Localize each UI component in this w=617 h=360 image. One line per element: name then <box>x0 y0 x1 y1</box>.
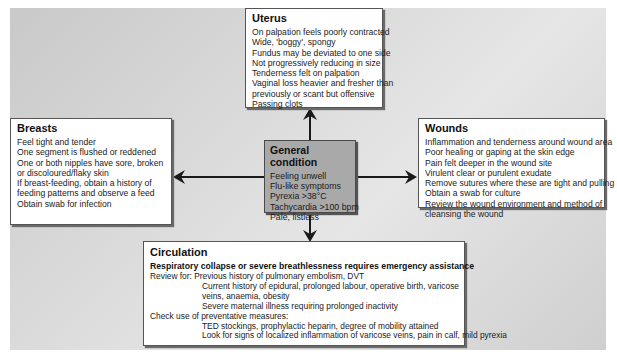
list-item: On palpation feels poorly contracted <box>252 27 376 37</box>
list-item: feeding patterns and observe a feed <box>17 188 165 198</box>
arrow-right-icon <box>405 170 417 184</box>
list-item: Obtain a swab for culture <box>425 188 598 198</box>
list-item: Not progressively reducing in size <box>252 58 376 68</box>
list-item: Wide, 'boggy', spongy <box>252 37 376 47</box>
uterus-box: Uterus On palpation feels poorly contrac… <box>245 8 383 108</box>
list-item: Feeling unwell <box>270 171 350 181</box>
uterus-title: Uterus <box>252 12 376 24</box>
wounds-list: Inflammation and tenderness around wound… <box>425 137 598 219</box>
list-item: One or both nipples have sore, broken <box>17 158 165 168</box>
list-item: Obtain swab for infection <box>17 199 165 209</box>
list-item: Remove sutures where these are tight and… <box>425 178 598 188</box>
breasts-box: Breasts Feel tight and tender One segmen… <box>10 118 172 225</box>
list-item: cleansing the wound <box>425 209 598 219</box>
list-item: Inflammation and tenderness around wound… <box>425 137 598 147</box>
general-condition-list: Feeling unwell Flu-like symptoms Pyrexia… <box>270 171 350 222</box>
connector-right <box>357 176 411 178</box>
list-item: or discoloured/flaky skin <box>17 168 165 178</box>
list-item: One segment is flushed or reddened <box>17 147 165 157</box>
arrow-up-icon <box>303 108 317 120</box>
list-item: Flu-like symptoms <box>270 181 350 191</box>
list-item: Tachycardia >100 bpm <box>270 202 350 212</box>
general-condition-title: General condition <box>270 144 350 168</box>
circulation-list: Review for: Previous history of pulmonar… <box>150 272 458 341</box>
list-item: If breast-feeding, obtain a history of <box>17 178 165 188</box>
list-item: Look for signs of localized inflammation… <box>150 331 458 341</box>
connector-left <box>180 176 264 178</box>
list-item: previously or scant but offensive <box>252 89 376 99</box>
list-item: Tenderness felt on palpation <box>252 68 376 78</box>
breasts-title: Breasts <box>17 122 165 134</box>
arrow-left-icon <box>173 170 185 184</box>
list-item: Vaginal loss heavier and fresher than <box>252 78 376 88</box>
list-item: Virulent clear or purulent exudate <box>425 168 598 178</box>
list-item: Pain felt deeper in the wound site <box>425 158 598 168</box>
list-item: Passing clots <box>252 99 376 109</box>
wounds-title: Wounds <box>425 122 598 134</box>
general-condition-box: General condition Feeling unwell Flu-lik… <box>264 140 356 213</box>
list-item: Pyrexia >38°C <box>270 191 350 201</box>
list-item: Pale, listless <box>270 212 350 222</box>
list-item: Feel tight and tender <box>17 137 165 147</box>
list-item: Poor healing or gaping at the skin edge <box>425 147 598 157</box>
breasts-list: Feel tight and tender One segment is flu… <box>17 137 165 209</box>
list-item: Review the wound environment and method … <box>425 199 598 209</box>
uterus-list: On palpation feels poorly contracted Wid… <box>252 27 376 109</box>
emergency-alert: Respiratory collapse or severe breathles… <box>150 261 458 271</box>
list-item: Fundus may be deviated to one side <box>252 48 376 58</box>
circulation-title: Circulation <box>150 246 458 258</box>
list-item: Current history of epidural, prolonged l… <box>150 282 458 292</box>
wounds-box: Wounds Inflammation and tenderness aroun… <box>418 118 605 208</box>
circulation-box: Circulation Respiratory collapse or seve… <box>143 241 465 346</box>
